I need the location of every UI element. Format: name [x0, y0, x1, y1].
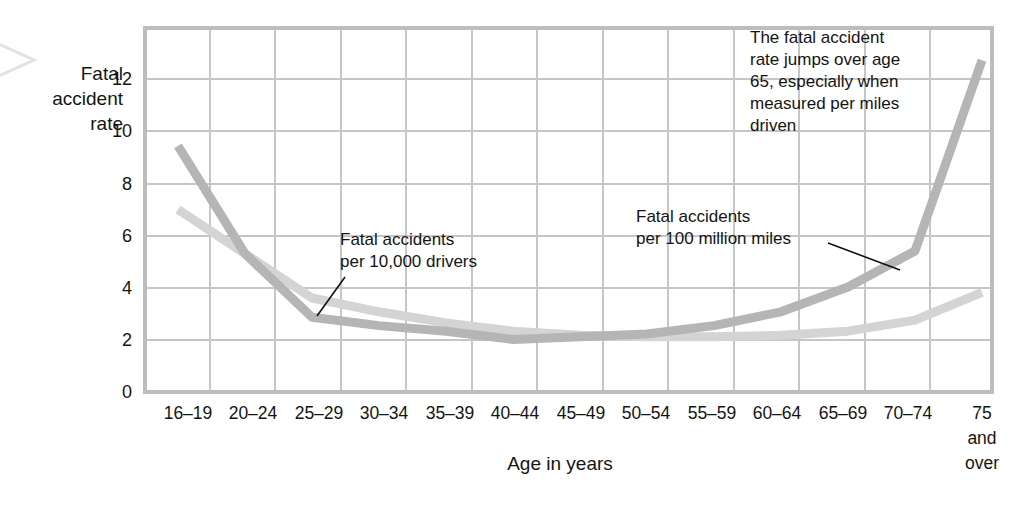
- x-tick-45-49: 45–49: [557, 403, 606, 423]
- annotation-callout-line-1: The fatal accident: [750, 28, 884, 47]
- x-tick-75-over-line-1: 75: [972, 403, 991, 423]
- x-tick-65-69: 65–69: [819, 403, 868, 423]
- x-tick-55-59: 55–59: [688, 403, 737, 423]
- y-tick-4: 4: [122, 278, 132, 298]
- x-tick-40-44: 40–44: [491, 403, 540, 423]
- x-tick-30-34: 30–34: [360, 403, 409, 423]
- x-tick-50-54: 50–54: [622, 403, 671, 423]
- fatal-accident-rate-chart: Fatal accident rate 0 2 4 6 8 10 12 16–1…: [0, 0, 1035, 505]
- annotation-drivers-line-2: per 10,000 drivers: [340, 252, 477, 271]
- y-tick-10: 10: [112, 121, 132, 141]
- horizontal-gridlines: [147, 79, 990, 340]
- annotation-miles-leader-line: [828, 243, 900, 270]
- annotation-callout-line-4: measured per miles: [750, 94, 899, 113]
- annotation-callout: The fatal accident rate jumps over age 6…: [750, 28, 900, 135]
- annotation-miles-line-2: per 100 million miles: [636, 229, 791, 248]
- y-tick-6: 6: [122, 226, 132, 246]
- x-tick-35-39: 35–39: [426, 403, 475, 423]
- x-tick-20-24: 20–24: [229, 403, 278, 423]
- x-axis-title: Age in years: [507, 453, 613, 474]
- x-tick-75-over-line-3: over: [965, 453, 999, 473]
- y-tick-12: 12: [112, 69, 132, 89]
- x-tick-25-29: 25–29: [295, 403, 344, 423]
- y-tick-0: 0: [122, 382, 132, 402]
- x-tick-70-74: 70–74: [884, 403, 933, 423]
- annotation-callout-line-3: 65, especially when: [750, 72, 898, 91]
- x-tick-75-over-line-2: and: [967, 428, 996, 448]
- x-tick-16-19: 16–19: [164, 403, 213, 423]
- y-axis-title-line-2: accident: [52, 88, 123, 109]
- series-line-per-100-million-miles: [178, 210, 982, 337]
- y-tick-2: 2: [122, 330, 132, 350]
- decorative-chevron-icon: [0, 42, 34, 78]
- annotation-callout-line-2: rate jumps over age: [750, 50, 900, 69]
- annotation-callout-line-5: driven: [750, 116, 796, 135]
- chart-svg: Fatal accident rate 0 2 4 6 8 10 12 16–1…: [0, 0, 1035, 505]
- annotation-miles: Fatal accidents per 100 million miles: [636, 207, 900, 270]
- y-tick-8: 8: [122, 174, 132, 194]
- x-tick-60-64: 60–64: [753, 403, 802, 423]
- annotation-miles-line-1: Fatal accidents: [636, 207, 750, 226]
- annotation-drivers-line-1: Fatal accidents: [340, 230, 454, 249]
